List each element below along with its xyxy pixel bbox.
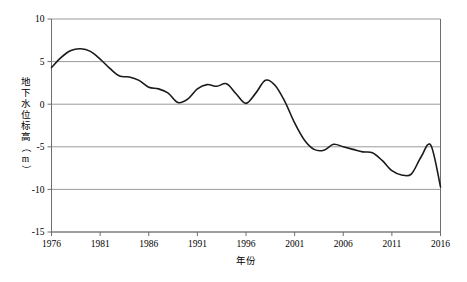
x-tick-label-1976: 1976 (42, 239, 61, 249)
y-tick-label--10: -10 (32, 185, 45, 195)
chart-container: 197619811986199119962001200620112016 105… (0, 0, 467, 282)
y-axis-title-char-1: 下 (21, 87, 31, 98)
y-tick-label--5: -5 (37, 142, 45, 152)
y-tick-label-5: 5 (40, 57, 45, 67)
y-axis-title-char-8: ） (21, 165, 32, 175)
y-tick-label-0: 0 (40, 100, 45, 110)
y-axis-title-char-0: 地 (21, 76, 31, 87)
x-tick-label-1981: 1981 (91, 239, 110, 249)
x-tick-label-1986: 1986 (139, 239, 158, 249)
y-tick-label--15: -15 (32, 227, 45, 237)
y-axis-title-char-5: 高 (21, 131, 31, 142)
y-axis-title-char-4: 标 (21, 120, 31, 131)
x-tick-labels-group: 197619811986199119962001200620112016 (42, 239, 450, 249)
x-axis-title: 年份 (236, 255, 256, 266)
x-tick-label-2001: 2001 (285, 239, 304, 249)
x-tick-label-2016: 2016 (431, 239, 450, 249)
groundwater-level-line-chart: 197619811986199119962001200620112016 105… (0, 0, 467, 282)
y-tick-label-10: 10 (35, 14, 45, 24)
y-axis-title-char-2: 水 (21, 98, 31, 109)
x-tick-label-1996: 1996 (237, 239, 256, 249)
y-axis-title-char-3: 位 (21, 109, 31, 120)
x-tick-label-2006: 2006 (334, 239, 353, 249)
x-tick-label-2011: 2011 (383, 239, 402, 249)
y-axis-title-char-7: m (22, 154, 30, 164)
x-tick-label-1991: 1991 (188, 239, 207, 249)
y-axis-title-char-6: （ (21, 143, 32, 153)
